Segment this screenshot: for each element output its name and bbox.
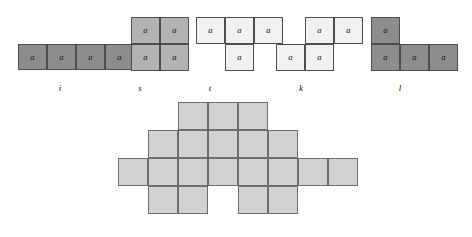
cell-label: a — [317, 26, 321, 35]
cell-label: a — [237, 26, 241, 35]
board-cell-r1-c4[interactable] — [238, 130, 268, 158]
piece-k-cell-a15[interactable]: a — [334, 17, 363, 44]
board-cell-r2-c1[interactable] — [148, 158, 178, 186]
board-cell-r1-c1[interactable] — [148, 130, 178, 158]
piece-i-cell-a3[interactable]: a — [105, 44, 134, 70]
piece-t-cell-a11[interactable]: a — [225, 44, 254, 71]
cell-label: a — [412, 53, 416, 62]
board-cell-r1-c3[interactable] — [208, 130, 238, 158]
board-cell-r3-c2[interactable] — [178, 186, 208, 214]
cell-label: a — [266, 26, 270, 35]
board-cell-r3-c4[interactable] — [238, 186, 268, 214]
cell-label: a — [143, 26, 147, 35]
cell-label: a — [317, 53, 321, 62]
board-cell-r2-c4[interactable] — [238, 158, 268, 186]
piece-label-s: s — [120, 84, 160, 93]
piece-l-cell-a17[interactable]: a — [371, 44, 400, 71]
cell-label: a — [117, 53, 121, 62]
piece-label-l: l — [380, 84, 420, 93]
cell-label: a — [30, 53, 34, 62]
cell-label: a — [383, 26, 387, 35]
board-cell-r2-c2[interactable] — [178, 158, 208, 186]
piece-t-cell-a10[interactable]: a — [254, 17, 283, 44]
piece-s-cell-a4[interactable]: a — [131, 17, 160, 44]
piece-label-t: t — [190, 84, 230, 93]
cell-label: a — [346, 26, 350, 35]
piece-l-cell-a19[interactable]: a — [429, 44, 458, 71]
board-cell-r2-c7[interactable] — [328, 158, 358, 186]
cell-label: a — [172, 26, 176, 35]
piece-s-cell-a6[interactable]: a — [160, 44, 189, 71]
board-cell-r1-c2[interactable] — [178, 130, 208, 158]
cell-label: a — [383, 53, 387, 62]
cell-label: a — [288, 53, 292, 62]
piece-label-i: i — [40, 84, 80, 93]
board-cell-r1-c5[interactable] — [268, 130, 298, 158]
cell-label: a — [143, 53, 147, 62]
piece-t-cell-a8[interactable]: a — [196, 17, 225, 44]
board-cell-r0-c4[interactable] — [238, 102, 268, 130]
piece-k-cell-a14[interactable]: a — [305, 17, 334, 44]
cell-label: a — [59, 53, 63, 62]
piece-s-cell-a5[interactable]: a — [160, 17, 189, 44]
tetromino-packing-figure: aaaaiaaaasaaaataaaakaaaal — [0, 0, 472, 237]
cell-label: a — [208, 26, 212, 35]
board-cell-r3-c5[interactable] — [268, 186, 298, 214]
piece-l-cell-a18[interactable]: a — [400, 44, 429, 71]
piece-k-cell-a13[interactable]: a — [305, 44, 334, 71]
cell-label: a — [237, 53, 241, 62]
board-cell-r0-c2[interactable] — [178, 102, 208, 130]
cell-label: a — [441, 53, 445, 62]
piece-t-cell-a9[interactable]: a — [225, 17, 254, 44]
piece-l-cell-a16[interactable]: a — [371, 17, 400, 44]
piece-k-cell-a12[interactable]: a — [276, 44, 305, 71]
cell-label: a — [88, 53, 92, 62]
piece-i-cell-a0[interactable]: a — [18, 44, 47, 70]
board-cell-r2-c5[interactable] — [268, 158, 298, 186]
board-cell-r2-c0[interactable] — [118, 158, 148, 186]
board-cell-r0-c3[interactable] — [208, 102, 238, 130]
board-cell-r3-c1[interactable] — [148, 186, 178, 214]
cell-label: a — [172, 53, 176, 62]
piece-i-cell-a1[interactable]: a — [47, 44, 76, 70]
piece-label-k: k — [281, 84, 321, 93]
board-cell-r2-c3[interactable] — [208, 158, 238, 186]
piece-s-cell-a7[interactable]: a — [131, 44, 160, 71]
board-cell-r2-c6[interactable] — [298, 158, 328, 186]
piece-i-cell-a2[interactable]: a — [76, 44, 105, 70]
